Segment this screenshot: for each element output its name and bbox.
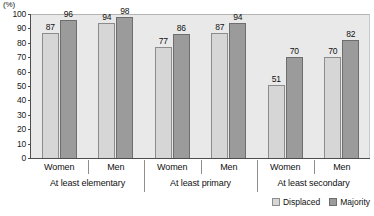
- bar-displaced: [268, 85, 285, 158]
- y-tick-mark: [28, 72, 31, 73]
- y-tick-label: 90: [0, 23, 31, 33]
- x-sub-label: Women: [31, 162, 88, 172]
- y-tick-mark: [28, 100, 31, 101]
- plot-area: 879694987786879451707082: [31, 14, 370, 158]
- y-tick-label: 60: [0, 67, 31, 77]
- y-tick-mark: [28, 115, 31, 116]
- y-tick-mark: [28, 158, 31, 159]
- x-subgroup-separator: [88, 160, 89, 174]
- y-tick-label: 70: [0, 52, 31, 62]
- x-group-label: At least elementary: [31, 178, 144, 188]
- y-tick-label: 0: [0, 153, 31, 163]
- bar-value-label: 96: [56, 9, 81, 19]
- x-axis-line: [30, 158, 370, 159]
- displaced-swatch-icon: [272, 198, 280, 206]
- y-tick-label: 10: [0, 139, 31, 149]
- legend-item-majority[interactable]: Majority: [329, 197, 370, 207]
- x-sub-label: Women: [144, 162, 201, 172]
- bar-value-label: 82: [338, 29, 363, 39]
- y-tick-label: 80: [0, 38, 31, 48]
- y-tick-mark: [28, 28, 31, 29]
- bars-layer: 879694987786879451707082: [31, 15, 369, 158]
- bar-value-label: 94: [225, 12, 250, 22]
- y-tick-label: 30: [0, 110, 31, 120]
- x-subgroup-separator: [314, 160, 315, 174]
- y-tick-mark: [28, 86, 31, 87]
- bar-displaced: [324, 57, 341, 158]
- y-tick-label: 40: [0, 95, 31, 105]
- x-sub-label: Men: [201, 162, 258, 172]
- bar-value-label: 98: [112, 6, 137, 16]
- y-tick-mark: [28, 14, 31, 15]
- legend-label-displaced: Displaced: [283, 197, 320, 207]
- bar-majority: [342, 40, 359, 158]
- bar-majority: [286, 57, 303, 158]
- y-tick-label: 20: [0, 124, 31, 134]
- x-subgroup-separator: [201, 160, 202, 174]
- x-sub-label: Men: [88, 162, 145, 172]
- legend-label-majority: Majority: [340, 197, 370, 207]
- legend: Displaced Majority: [272, 197, 370, 207]
- y-tick-label: 100: [0, 9, 31, 19]
- bar-displaced: [155, 47, 172, 158]
- y-tick-mark: [28, 57, 31, 58]
- x-sub-label: Men: [314, 162, 371, 172]
- bar-majority: [116, 17, 133, 158]
- majority-swatch-icon: [329, 198, 337, 206]
- bar-value-label: 70: [282, 46, 307, 56]
- x-group-label: At least secondary: [257, 178, 370, 188]
- bar-value-label: 86: [169, 23, 194, 33]
- bar-chart: (%) 879694987786879451707082 10090807060…: [0, 0, 374, 216]
- y-tick-label: 50: [0, 81, 31, 91]
- y-tick-mark: [28, 129, 31, 130]
- y-tick-mark: [28, 144, 31, 145]
- y-axis-unit-label: (%): [3, 0, 15, 9]
- bar-displaced: [211, 33, 228, 158]
- legend-item-displaced[interactable]: Displaced: [272, 197, 320, 207]
- y-tick-mark: [28, 43, 31, 44]
- bar-majority: [60, 20, 77, 158]
- bar-majority: [229, 23, 246, 158]
- x-sub-label: Women: [257, 162, 314, 172]
- bar-majority: [173, 34, 190, 158]
- bar-displaced: [98, 23, 115, 158]
- bar-displaced: [42, 33, 59, 158]
- x-group-label: At least primary: [144, 178, 257, 188]
